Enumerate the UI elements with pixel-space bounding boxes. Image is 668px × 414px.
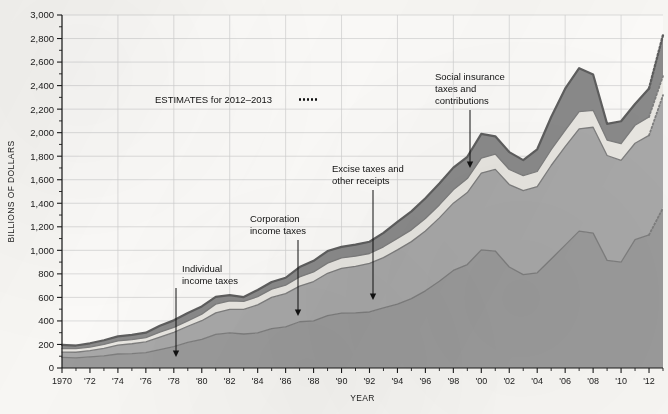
y-tick-label: 400 — [38, 315, 54, 326]
x-tick-label: '00 — [475, 376, 487, 386]
annotation-label-excise-taxes: Excise taxes and — [332, 163, 404, 174]
x-tick-label: '82 — [224, 376, 236, 386]
y-tick-label: 800 — [38, 268, 54, 279]
y-tick-label: 600 — [38, 292, 54, 303]
y-axis-ticks: 02004006008001,0001,2001,4001,6001,8002,… — [30, 9, 62, 373]
x-tick-label: 1970 — [52, 376, 72, 386]
y-tick-label: 2,200 — [30, 104, 54, 115]
x-axis-title: YEAR — [350, 393, 375, 403]
x-tick-label: '98 — [447, 376, 459, 386]
x-tick-label: '10 — [615, 376, 627, 386]
x-tick-label: '96 — [420, 376, 432, 386]
receipts-area-chart: 02004006008001,0001,2001,4001,6001,8002,… — [0, 0, 668, 414]
x-tick-label: '94 — [392, 376, 404, 386]
y-tick-label: 1,800 — [30, 151, 54, 162]
annotation-label-social-insurance-taxes: Social insurance — [435, 71, 505, 82]
x-tick-label: '88 — [308, 376, 320, 386]
y-tick-label: 2,400 — [30, 80, 54, 91]
x-tick-label: '08 — [587, 376, 599, 386]
annotation-label-corporation-income-taxes: income taxes — [250, 225, 306, 236]
annotation-label-social-insurance-taxes: taxes and — [435, 83, 476, 94]
x-tick-label: '04 — [531, 376, 543, 386]
y-axis-title: BILLIONS OF DOLLARS — [6, 140, 16, 242]
estimates-note-label: ESTIMATES for 2012–2013 — [155, 94, 272, 105]
y-tick-label: 1,600 — [30, 174, 54, 185]
annotation-label-individual-income-taxes: Individual — [182, 263, 222, 274]
chart-svg: 02004006008001,0001,2001,4001,6001,8002,… — [0, 0, 668, 414]
x-tick-label: '72 — [84, 376, 96, 386]
x-tick-label: '90 — [336, 376, 348, 386]
annotation-label-social-insurance-taxes: contributions — [435, 95, 489, 106]
x-tick-label: '76 — [140, 376, 152, 386]
x-tick-label: '86 — [280, 376, 292, 386]
y-tick-label: 3,000 — [30, 9, 54, 20]
y-tick-label: 0 — [49, 362, 54, 373]
y-tick-label: 1,200 — [30, 221, 54, 232]
x-tick-label: '92 — [364, 376, 376, 386]
x-tick-label: '80 — [196, 376, 208, 386]
x-tick-label: '78 — [168, 376, 180, 386]
x-tick-label: '12 — [643, 376, 655, 386]
y-tick-label: 2,800 — [30, 33, 54, 44]
x-tick-label: '06 — [559, 376, 571, 386]
annotation-label-individual-income-taxes: income taxes — [182, 275, 238, 286]
y-tick-label: 200 — [38, 339, 54, 350]
x-tick-label: '74 — [112, 376, 124, 386]
annotation-label-excise-taxes: other receipts — [332, 175, 390, 186]
annotation-label-corporation-income-taxes: Corporation — [250, 213, 300, 224]
y-tick-label: 1,000 — [30, 245, 54, 256]
y-tick-label: 2,000 — [30, 127, 54, 138]
y-tick-label: 1,400 — [30, 198, 54, 209]
x-axis-ticks: 1970'72'74'76'78'80'82'84'86'88'90'92'94… — [52, 368, 663, 386]
x-tick-label: '84 — [252, 376, 264, 386]
x-tick-label: '02 — [503, 376, 515, 386]
y-tick-label: 2,600 — [30, 56, 54, 67]
